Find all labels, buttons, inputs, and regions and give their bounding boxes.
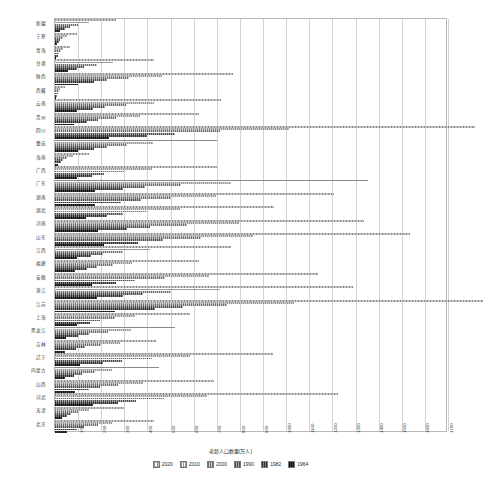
- bar-group: [55, 32, 446, 45]
- bar-group: [55, 126, 446, 139]
- legend-item[interactable]: 1982: [261, 461, 281, 468]
- x-tick-label: 300: [125, 426, 130, 433]
- x-tick-label: 1300: [356, 423, 361, 433]
- legend-swatch: [180, 461, 187, 468]
- legend-label: 2010: [189, 462, 200, 467]
- x-tick-label: 1000: [287, 423, 292, 433]
- bar: [55, 177, 77, 179]
- bar: [55, 391, 75, 393]
- bar: [55, 337, 66, 339]
- y-axis-label: 重庆: [0, 142, 46, 147]
- bar-group: [55, 353, 446, 366]
- bar-group: [55, 259, 446, 272]
- x-tick-label: 800: [241, 426, 246, 433]
- legend-swatch: [234, 461, 241, 468]
- bar-group: [55, 273, 446, 286]
- y-axis-label: 贵州: [0, 116, 46, 121]
- bar: [55, 150, 78, 152]
- y-axis-label: 四川: [0, 129, 46, 134]
- y-axis-label: 上海: [0, 316, 46, 321]
- bar: [55, 284, 92, 286]
- bar: [55, 84, 78, 86]
- y-axis-label: 山西: [0, 383, 46, 388]
- bar: [55, 417, 62, 419]
- bar-group: [55, 393, 446, 406]
- legend-item[interactable]: 1964: [288, 461, 308, 468]
- x-tick-label: 100: [79, 426, 84, 433]
- y-axis-label: 宁夏: [0, 35, 46, 40]
- bar-group: [55, 112, 446, 125]
- bar: [55, 43, 57, 45]
- bar: [55, 351, 65, 353]
- x-tick-label: 500: [171, 426, 176, 433]
- x-tick-label: 1500: [402, 423, 407, 433]
- legend-label: 2000: [216, 462, 227, 467]
- bar-group: [55, 139, 446, 152]
- y-axis-label: 辽宁: [0, 356, 46, 361]
- legend-item[interactable]: 2010: [180, 461, 200, 468]
- bar: [55, 297, 97, 299]
- bar-group: [55, 286, 446, 299]
- chart-legend: 202020102000199019821964: [0, 461, 461, 468]
- bar: [55, 97, 56, 99]
- y-axis-label: 天津: [0, 409, 46, 414]
- legend-item[interactable]: 2000: [207, 461, 227, 468]
- y-axis-label: 陕西: [0, 75, 46, 80]
- legend-swatch: [261, 461, 268, 468]
- bar-group: [55, 299, 446, 312]
- x-tick-label: 200: [102, 426, 107, 433]
- bar: [55, 324, 77, 326]
- bar: [55, 110, 77, 112]
- bar: [55, 30, 60, 32]
- legend-label: 1982: [270, 462, 281, 467]
- legend-item[interactable]: 2020: [153, 461, 173, 468]
- bar: [55, 377, 65, 379]
- bar-group: [55, 340, 446, 353]
- y-axis-label: 新疆: [0, 22, 46, 27]
- x-tick-label: 400: [148, 426, 153, 433]
- y-axis-label: 海南: [0, 156, 46, 161]
- y-axis-label: 山东: [0, 236, 46, 241]
- x-tick-label: 600: [194, 426, 199, 433]
- bar-group: [55, 179, 446, 192]
- bar-group: [55, 366, 446, 379]
- x-tick-label: 700: [217, 426, 222, 433]
- bar-group: [55, 406, 446, 419]
- legend-swatch: [153, 461, 160, 468]
- bar: [55, 270, 75, 272]
- y-axis-label: 安徽: [0, 276, 46, 281]
- y-axis-label: 浙江: [0, 289, 46, 294]
- y-axis-label: 广东: [0, 182, 46, 187]
- bar-group: [55, 246, 446, 259]
- y-axis-label: 湖南: [0, 196, 46, 201]
- legend-item[interactable]: 1990: [234, 461, 254, 468]
- y-axis-label: 西藏: [0, 89, 46, 94]
- bar: [55, 257, 77, 259]
- bar-group: [55, 86, 446, 99]
- y-axis-label: 河南: [0, 222, 46, 227]
- bar-group: [55, 193, 446, 206]
- x-tick-label: 1700: [449, 423, 454, 433]
- gridline: [448, 19, 449, 431]
- bar: [55, 217, 86, 219]
- y-axis-label: 福建: [0, 262, 46, 267]
- y-axis-label: 江西: [0, 249, 46, 254]
- bar: [55, 230, 98, 232]
- x-tick-label: 1400: [379, 423, 384, 433]
- y-axis-category-labels: 北京天津河北山西内蒙古辽宁吉林黑龙江上海江苏浙江安徽福建江西山东河南湖北湖南广东…: [0, 18, 50, 432]
- bar-group: [55, 420, 446, 433]
- bar: [55, 124, 74, 126]
- y-axis-label: 河北: [0, 396, 46, 401]
- bar-group: [55, 380, 446, 393]
- bar: [55, 164, 58, 166]
- bar: [55, 190, 95, 192]
- bar-group: [55, 233, 446, 246]
- bar-rows: [55, 19, 446, 431]
- bar-group: [55, 153, 446, 166]
- x-tick-label: 0: [56, 431, 61, 433]
- x-axis-title: 老龄人口数量(万人): [0, 447, 461, 454]
- x-tick-label: 1100: [310, 424, 315, 433]
- bar-group: [55, 46, 446, 59]
- legend-label: 1990: [243, 462, 254, 467]
